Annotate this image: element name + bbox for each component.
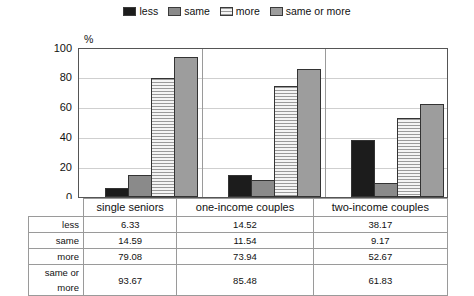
table-cell-same-two-income-couples: 9.17 [313, 233, 447, 249]
bar-two-income-couples-less [351, 140, 375, 197]
bar-group-two-income-couples [325, 49, 447, 197]
plot-area [78, 48, 448, 198]
bar-two-income-couples-more [397, 118, 421, 197]
bar-group-one-income-couples [202, 49, 325, 197]
table-category-single-seniors: single seniors [84, 199, 177, 217]
table-cell-more-single-seniors: 79.08 [84, 249, 177, 265]
table-cell-same-single-seniors: 14.59 [84, 233, 177, 249]
bar-two-income-couples-same-or-more [420, 104, 444, 197]
table-row-label-less: less [29, 217, 84, 233]
bar-group-single-seniors [79, 49, 202, 197]
table-row: same or more 93.67 85.48 61.83 [29, 265, 448, 296]
y-tick-100: 100 [38, 42, 72, 54]
table-cell-same-or-more-single-seniors: 93.67 [84, 265, 177, 296]
bar-one-income-couples-less [228, 175, 252, 197]
table-cell-same-one-income-couples: 11.54 [177, 233, 313, 249]
bar-single-seniors-less [105, 188, 129, 198]
y-tick-80: 80 [38, 71, 72, 83]
table-category-two-income-couples: two-income couples [313, 199, 447, 217]
table-row-label-same-or-more: same or more [29, 265, 84, 296]
bar-one-income-couples-same-or-more [297, 69, 321, 197]
table-row: less 6.33 14.52 38.17 [29, 217, 448, 233]
table-cell-more-one-income-couples: 73.94 [177, 249, 313, 265]
table-cell-same-or-more-one-income-couples: 85.48 [177, 265, 313, 296]
table-row-label-more: more [29, 249, 84, 265]
table-category-row: single seniors one-income couples two-in… [29, 199, 448, 217]
y-tick-40: 40 [38, 131, 72, 143]
table-corner-cell [29, 199, 84, 217]
data-table: single seniors one-income couples two-in… [28, 198, 448, 296]
table-cell-less-two-income-couples: 38.17 [313, 217, 447, 233]
y-tick-20: 20 [38, 161, 72, 173]
bar-two-income-couples-same [374, 183, 398, 197]
table-cell-more-two-income-couples: 52.67 [313, 249, 447, 265]
table-cell-less-one-income-couples: 14.52 [177, 217, 313, 233]
table-row: more 79.08 73.94 52.67 [29, 249, 448, 265]
bar-one-income-couples-same [251, 180, 275, 197]
bar-one-income-couples-more [274, 86, 298, 197]
bar-single-seniors-same-or-more [174, 57, 198, 198]
table-cell-less-single-seniors: 6.33 [84, 217, 177, 233]
table-category-one-income-couples: one-income couples [177, 199, 313, 217]
table-row: same 14.59 11.54 9.17 [29, 233, 448, 249]
y-tick-60: 60 [38, 101, 72, 113]
bar-single-seniors-more [151, 78, 175, 197]
bar-single-seniors-same [128, 175, 152, 197]
table-cell-same-or-more-two-income-couples: 61.83 [313, 265, 447, 296]
table-row-label-same: same [29, 233, 84, 249]
